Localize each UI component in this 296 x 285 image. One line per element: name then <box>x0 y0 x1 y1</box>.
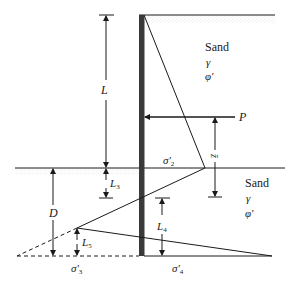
L-label: L <box>100 83 108 97</box>
upper-soil-friction-angle: φ′ <box>205 70 214 82</box>
zbar-label: z̄ <box>209 153 220 158</box>
upper-ground-stipple <box>144 15 275 23</box>
sigma3-label: σ′3 <box>71 262 83 276</box>
L4-label: L4 <box>156 220 167 234</box>
L5-subscript: 5 <box>88 242 92 250</box>
sigma2-label: σ′2 <box>163 154 175 168</box>
passive-pressure-line <box>77 228 272 256</box>
net-pressure-extension-dashed <box>17 228 77 256</box>
sigma2-subscript: 2 <box>171 160 175 168</box>
L5-symbol: L <box>81 236 88 248</box>
upper-soil-name: Sand <box>205 40 229 54</box>
L3-symbol: L <box>109 177 116 189</box>
L4-symbol: L <box>156 220 163 232</box>
L5-label: L5 <box>81 236 92 250</box>
P-label: P <box>238 110 247 124</box>
L3-subscript: 3 <box>116 183 120 191</box>
L3-label: L3 <box>109 177 120 191</box>
sheet-pile <box>139 15 145 256</box>
sheet-pile-diagram: L P z̄ σ′2 Sand γ φ′ Sand γ φ′ L3 D L4 L… <box>0 0 296 285</box>
active-pressure-line <box>144 15 205 168</box>
sigma4-subscript: 4 <box>180 268 184 276</box>
L4-subscript: 4 <box>163 226 167 234</box>
lower-soil-friction-angle: φ′ <box>245 207 254 219</box>
sigma3-subscript: 3 <box>79 268 83 276</box>
dredge-line-stipple <box>15 168 139 175</box>
upper-soil-unit-weight: γ <box>206 56 211 68</box>
lower-soil-name: Sand <box>245 176 269 190</box>
sigma4-label: σ′4 <box>172 262 184 276</box>
D-label: D <box>48 206 58 220</box>
lower-soil-unit-weight: γ <box>246 192 251 204</box>
